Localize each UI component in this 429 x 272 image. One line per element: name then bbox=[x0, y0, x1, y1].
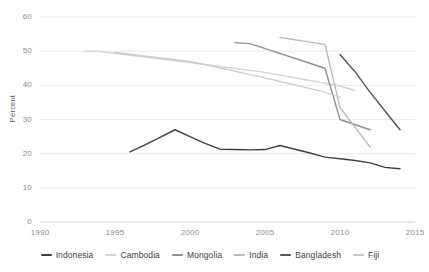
legend-label: Fiji bbox=[368, 250, 379, 260]
legend-item-cambodia[interactable]: Cambodia bbox=[105, 250, 160, 260]
series-line-fiji bbox=[115, 53, 340, 98]
x-tick-label: 2015 bbox=[395, 228, 429, 237]
y-tick-label: 30 bbox=[8, 115, 32, 124]
x-tick-label: 2000 bbox=[170, 228, 210, 237]
legend-swatch-icon bbox=[353, 254, 364, 256]
y-tick-label: 50 bbox=[8, 46, 32, 55]
legend-item-mongolia[interactable]: Mongolia bbox=[172, 250, 222, 260]
legend-item-bangladesh[interactable]: Bangladesh bbox=[280, 250, 341, 260]
series-line-indonesia bbox=[130, 130, 400, 169]
y-tick-label: 0 bbox=[8, 217, 32, 226]
x-tick-label: 2005 bbox=[245, 228, 285, 237]
y-tick-label: 40 bbox=[8, 80, 32, 89]
y-tick-label: 20 bbox=[8, 149, 32, 158]
legend-label: Indonesia bbox=[56, 250, 94, 260]
x-tick-label: 1995 bbox=[95, 228, 135, 237]
legend-item-india[interactable]: India bbox=[234, 250, 268, 260]
y-tick-label: 60 bbox=[8, 12, 32, 21]
legend-swatch-icon bbox=[41, 254, 52, 256]
y-tick-label: 10 bbox=[8, 183, 32, 192]
x-tick-label: 1990 bbox=[20, 228, 60, 237]
legend-swatch-icon bbox=[105, 254, 116, 256]
legend-item-fiji[interactable]: Fiji bbox=[353, 250, 379, 260]
legend-label: Mongolia bbox=[187, 250, 222, 260]
x-tick-label: 2010 bbox=[320, 228, 360, 237]
legend-label: Bangladesh bbox=[295, 250, 341, 260]
legend-swatch-icon bbox=[172, 254, 183, 256]
legend-item-indonesia[interactable]: Indonesia bbox=[41, 250, 94, 260]
legend-swatch-icon bbox=[280, 254, 291, 256]
legend: IndonesiaCambodiaMongoliaIndiaBangladesh… bbox=[0, 250, 420, 260]
legend-swatch-icon bbox=[234, 254, 245, 256]
series-line-cambodia bbox=[85, 51, 355, 90]
legend-label: Cambodia bbox=[120, 250, 160, 260]
legend-label: India bbox=[249, 250, 268, 260]
